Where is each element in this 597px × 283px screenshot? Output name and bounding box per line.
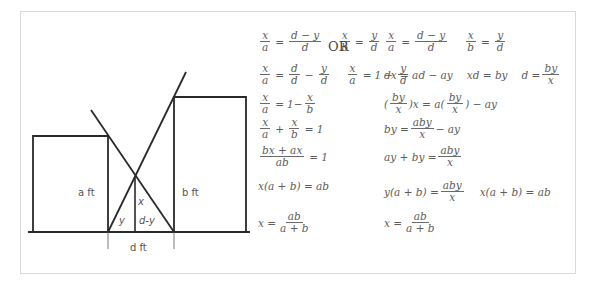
equation-row: xa=d − ydxb=yd [384,30,508,53]
denominator: x [417,129,427,140]
equation-row: (byx)x = a(byx) − ay [384,92,497,115]
fraction: byx [542,63,559,86]
denominator: ab [274,157,291,168]
equation-text: ) − ay [465,98,497,110]
fraction: xa [260,63,270,86]
equation-text: dx = ad − ay [384,69,453,81]
denominator: d [426,42,437,53]
equation-row: ay + by =abyx [384,145,463,168]
operator: − [305,69,314,81]
fraction: xb [465,30,476,53]
fraction: aba + b [404,211,436,234]
denominator: a + b [278,223,310,234]
equation-text: by = [384,123,409,135]
label-x: x [137,196,144,207]
or-separator: OR [328,39,348,54]
denominator: x [450,104,460,115]
fraction: xb [289,117,300,140]
denominator: a + b [404,223,436,234]
operator: = [355,36,364,48]
equation-row: dx = ad − ayxd = byd =byx [384,63,561,86]
equation-row: bx + axab=1 [258,145,328,168]
denominator: d [369,42,380,53]
denominator: x [393,104,403,115]
fraction: xa [260,30,270,53]
denominator: a [386,42,396,53]
label-d-ft: d ft [130,242,147,253]
fraction: xa [347,63,357,86]
denominator: a [260,42,270,53]
fraction: byx [390,92,407,115]
fraction: xa [386,30,396,53]
operator: + [275,123,284,135]
equation-text: 1 [321,151,328,163]
equation-text: x(a + b) = ab [258,180,329,192]
fraction: abyx [411,117,434,140]
equation-row: y(a + b) =abyxx(a + b) = ab [384,180,551,203]
left-building [33,136,108,232]
denominator: d [319,75,330,86]
fraction: xa [260,117,270,140]
equation-row: x =aba + b [258,211,313,234]
right-building [174,97,246,232]
fraction: xa [260,92,270,115]
denominator: b [465,42,476,53]
denominator: x [447,192,457,203]
equation-text: ( [384,98,388,110]
denominator: a [347,75,357,86]
equation-text: x = [384,217,402,229]
fraction: xb [305,92,316,115]
equation-text: 1− [287,98,302,110]
equation-row: x =aba + b [384,211,439,234]
denominator: x [445,157,455,168]
equation-text: ay + by = [384,151,436,163]
equation-text: xd = by [467,69,508,81]
fraction: d − yd [289,30,321,53]
equation-text: − ay [436,123,460,135]
equation-text: x(a + b) = ab [480,186,551,198]
operator: = [275,98,284,110]
operator: = [401,36,410,48]
equation-row: xa=1−xb [258,92,317,115]
fraction: yd [319,63,330,86]
label-b-ft: b ft [182,187,199,198]
denominator: d [300,42,311,53]
fraction: abyx [441,180,464,203]
fraction: yd [369,30,380,53]
operator: = [275,69,284,81]
fraction: yd [495,30,506,53]
operator: = [309,151,318,163]
fraction: abyx [438,145,461,168]
denominator: b [289,129,300,140]
denominator: a [260,129,270,140]
equation-text: y(a + b) = [384,186,439,198]
equation-text: 1 [317,123,324,135]
equation-row: x(a + b) = ab [258,180,329,192]
equation-text: d = [522,69,541,81]
equation-text: x = [258,217,276,229]
denominator: d [495,42,506,53]
fraction: dd [289,63,300,86]
denominator: x [546,75,556,86]
operator: = [363,69,372,81]
equation-row: xa=d − ydxb=yd [258,30,382,53]
equation-row: by =abyx− ay [384,117,460,140]
fraction: d − yd [415,30,447,53]
operator: = [481,36,490,48]
operator: = [275,36,284,48]
label-d-minus-y: d-y [139,215,156,226]
equation-row: xa+xb=1 [258,117,323,140]
label-a-ft: a ft [78,187,95,198]
denominator: a [260,75,270,86]
denominator: b [305,104,316,115]
denominator: a [260,104,270,115]
ladder-right-base [91,110,174,232]
operator: = [305,123,314,135]
fraction: bx + axab [260,145,304,168]
denominator: d [289,75,300,86]
equation-text: )x = a( [409,98,445,110]
equation-text: 1 [374,69,381,81]
fraction: aba + b [278,211,310,234]
label-y: y [118,215,126,226]
fraction: byx [447,92,464,115]
